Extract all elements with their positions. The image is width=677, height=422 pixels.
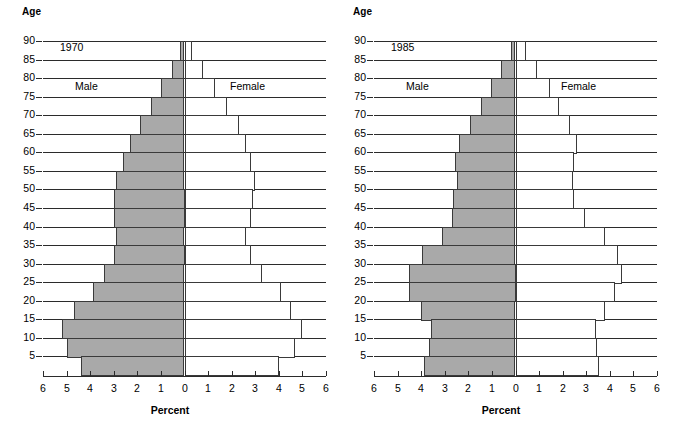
age-tick-mark [36, 301, 42, 302]
x-tick-mark [114, 371, 115, 376]
age-tick-label: 15 [344, 312, 366, 324]
female-bar [516, 134, 577, 154]
age-tick-mark [367, 171, 373, 172]
percent-tick-label: 6 [649, 382, 665, 394]
female-bar [185, 264, 263, 284]
age-tick-mark [36, 134, 42, 135]
male-bar [116, 227, 184, 247]
age-tick-label: 55 [13, 164, 35, 176]
age-tick-label: 55 [344, 164, 366, 176]
x-tick-mark [586, 371, 587, 376]
age-tick-mark [367, 189, 373, 190]
male-bar [459, 134, 516, 154]
percent-tick-label: 0 [508, 382, 524, 394]
male-bar [429, 338, 515, 358]
female-bar [185, 78, 216, 98]
percent-tick-label: 2 [224, 382, 240, 394]
age-tick-mark [36, 97, 42, 98]
age-tick-label: 70 [13, 108, 35, 120]
male-bar [123, 152, 184, 172]
age-tick-mark [36, 152, 42, 153]
female-bar [185, 171, 256, 191]
x-tick-mark [232, 371, 233, 376]
male-bar [114, 189, 185, 209]
percent-axis-title: Percent [471, 404, 531, 416]
female-bar [185, 245, 251, 265]
female-bar [516, 338, 597, 358]
age-tick-label: 60 [344, 145, 366, 157]
male-bar [409, 282, 515, 302]
female-bar [185, 282, 282, 302]
female-bar [516, 208, 586, 228]
percent-tick-label: 2 [460, 382, 476, 394]
male-bar [114, 245, 185, 265]
female-bar [185, 319, 303, 339]
female-bar [516, 78, 550, 98]
male-bar [161, 78, 185, 98]
percent-tick-label: 3 [578, 382, 594, 394]
male-bar [93, 282, 185, 302]
female-bar [516, 245, 619, 265]
female-bar [185, 338, 296, 358]
age-tick-mark [367, 282, 373, 283]
age-tick-mark [36, 338, 42, 339]
percent-tick-label: 3 [106, 382, 122, 394]
female-bar [185, 41, 192, 61]
chart-panel-1985: Age 1985 Male Female 9085807570656055504… [339, 0, 677, 422]
female-bar [185, 301, 291, 321]
x-axis-line [43, 376, 326, 377]
female-bar [185, 115, 239, 135]
age-tick-mark [367, 97, 373, 98]
x-tick-mark [208, 371, 209, 376]
percent-axis-title: Percent [140, 404, 200, 416]
age-tick-mark [36, 208, 42, 209]
male-bar [421, 301, 515, 321]
female-bar [516, 319, 596, 339]
x-tick-mark [90, 371, 91, 376]
female-bar [185, 152, 251, 172]
age-tick-label: 35 [344, 238, 366, 250]
female-bar [516, 264, 622, 284]
age-tick-mark [367, 227, 373, 228]
age-tick-label: 25 [344, 275, 366, 287]
age-tick-label: 10 [13, 331, 35, 343]
female-bar [185, 227, 246, 247]
x-tick-mark [279, 371, 280, 376]
age-tick-label: 65 [13, 127, 35, 139]
female-bar [185, 189, 253, 209]
percent-tick-label: 5 [59, 382, 75, 394]
male-bar [74, 301, 185, 321]
age-tick-mark [36, 319, 42, 320]
age-tick-mark [36, 41, 42, 42]
age-tick-label: 85 [344, 53, 366, 65]
age-tick-label: 80 [13, 71, 35, 83]
female-bar [516, 189, 575, 209]
population-pyramid-figure: Age 1970 Male Female 9085807570656055504… [0, 0, 677, 422]
age-tick-label: 45 [344, 201, 366, 213]
chart-panel-1970: Age 1970 Male Female 9085807570656055504… [0, 0, 338, 422]
age-tick-mark [36, 115, 42, 116]
male-bar [422, 245, 515, 265]
age-tick-label: 35 [13, 238, 35, 250]
age-tick-mark [367, 301, 373, 302]
age-tick-label: 60 [13, 145, 35, 157]
x-tick-mark [161, 371, 162, 376]
age-tick-mark [367, 41, 373, 42]
male-bar [455, 152, 515, 172]
percent-tick-label: 6 [318, 382, 334, 394]
percent-tick-label: 4 [413, 382, 429, 394]
percent-tick-label: 4 [271, 382, 287, 394]
x-tick-mark [421, 371, 422, 376]
female-bar [516, 97, 560, 117]
male-bar [453, 189, 515, 209]
male-bar [151, 97, 184, 117]
x-tick-mark [516, 371, 517, 376]
male-bar [501, 60, 515, 80]
x-tick-mark [610, 371, 611, 376]
percent-tick-label: 3 [247, 382, 263, 394]
male-bar [470, 115, 516, 135]
male-bar [172, 60, 185, 80]
male-bar [130, 134, 184, 154]
female-bar [516, 282, 615, 302]
age-tick-label: 50 [344, 182, 366, 194]
